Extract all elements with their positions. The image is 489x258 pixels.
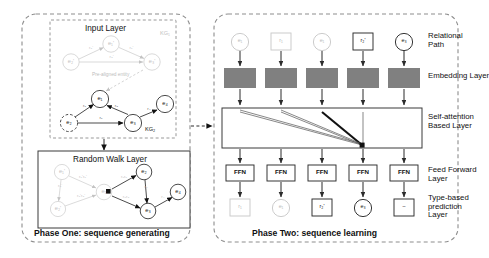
kg1-label: KG₁ xyxy=(160,30,170,36)
graph-node-rw-e4: e₄ xyxy=(172,188,184,194)
graph-edge-label: r₁'r₂' xyxy=(75,175,91,180)
graph-node-kg2-e2: e₂ xyxy=(63,119,75,125)
graph-node-kg1-e3: e₃' xyxy=(146,58,158,64)
graph-edge-label: r₄ xyxy=(155,195,171,200)
graph-edge-label: r₁ xyxy=(77,104,93,109)
side-label-type-based-prediction-layer: Type-based prediction Layer xyxy=(428,194,488,220)
graph-edge-label: r₃' xyxy=(52,184,68,189)
random-walk-layer-title: Random Walk Layer xyxy=(73,155,147,164)
graph-edge-label: r₁r₂ xyxy=(116,175,132,180)
graph-node-kg2-e1: e₁ xyxy=(94,95,106,101)
phase-two-title: Phase Two: sequence learning xyxy=(252,229,377,239)
ffn-label-0: FFN xyxy=(226,169,254,176)
side-label-embedding-layer: Embedding Layer xyxy=(428,72,488,81)
graph-edge-label: r₃ xyxy=(138,185,154,190)
graph-edge-label: r₂'r₃' xyxy=(73,194,89,199)
graph-node-rw-center: e₁ xyxy=(98,188,110,194)
input-token-label-3: r₂' xyxy=(353,38,373,44)
input-token-label-0: e₁ xyxy=(230,38,250,44)
graph-node-rw-e2: e₂ xyxy=(138,168,150,174)
output-token-label-2: r₂' xyxy=(312,204,332,210)
ffn-label-1: FFN xyxy=(267,169,295,176)
input-layer-title: Input Layer xyxy=(85,24,126,33)
graph-edge-label: r₃' xyxy=(104,55,120,60)
side-label-self-attention-layer: Self-attention Based Layer xyxy=(428,113,488,130)
embedding-box-1[interactable] xyxy=(265,68,297,88)
pre-aligned-entity-label: Pre-aligned entity xyxy=(92,72,129,77)
output-token-label-0: r₁ xyxy=(230,204,250,210)
ffn-label-3: FFN xyxy=(349,169,377,176)
phase-one-title: Phase One: sequence generating xyxy=(34,229,170,239)
embedding-box-0[interactable] xyxy=(224,68,256,88)
graph-node-rw-e1p: e₁' xyxy=(56,168,68,174)
graph-edge-label: r₂' xyxy=(83,46,99,51)
graph-node-kg2-e3: e₃ xyxy=(127,119,139,125)
graph-edge-label: r₄ xyxy=(141,107,157,112)
kg2-label: KG₂ xyxy=(145,126,155,132)
side-label-feed-forward-layer: Feed Forward Layer xyxy=(428,166,488,183)
graph-edge-label: r₂ xyxy=(93,116,109,121)
output-token-label-4: – xyxy=(394,204,414,210)
input-token-label-1: r₁ xyxy=(271,38,291,44)
embedding-box-2[interactable] xyxy=(306,68,338,88)
side-label-relational-path: Relational Path xyxy=(428,32,488,49)
output-token-label-3: e₃ xyxy=(353,204,373,210)
input-token-label-2: e₁ xyxy=(312,38,332,44)
graph-edge-label: r₁' xyxy=(124,46,140,51)
ffn-label-4: FFN xyxy=(390,169,418,176)
graph-edge-label: r₃ xyxy=(109,104,125,109)
embedding-box-3[interactable] xyxy=(347,68,379,88)
graph-node-kg1-e2: e₂' xyxy=(65,58,77,64)
graph-node-kg1-e1: e₁' xyxy=(105,40,117,46)
embedding-box-4[interactable] xyxy=(388,68,420,88)
graph-node-rw-e2p: e₂' xyxy=(52,205,64,211)
ffn-label-2: FFN xyxy=(308,169,336,176)
graph-edge-label: r₂r₃ xyxy=(118,195,134,200)
input-token-label-4: e₃ xyxy=(394,38,414,44)
graph-node-kg2-e4: e₄ xyxy=(159,100,171,106)
graph-node-rw-e3: e₃ xyxy=(142,207,154,213)
output-token-label-1: e₁ xyxy=(271,204,291,210)
